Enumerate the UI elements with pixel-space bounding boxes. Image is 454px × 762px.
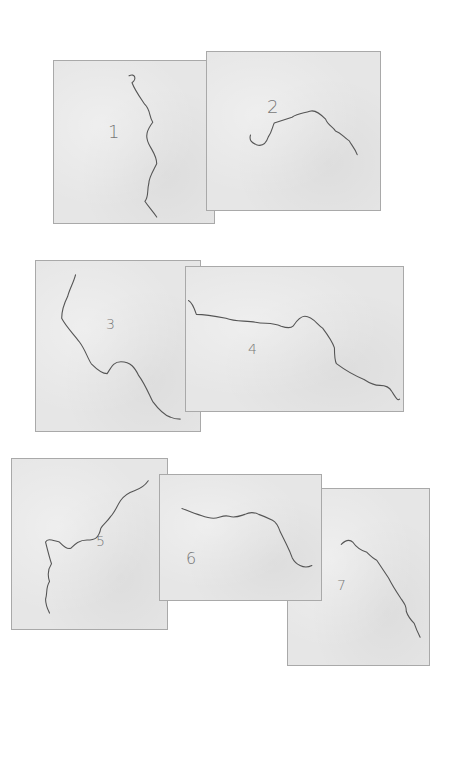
crack-line-3 (36, 261, 200, 431)
crack-line-4 (186, 267, 403, 411)
panel-label-2: 2 (267, 96, 278, 117)
crack-panel-2: 2 (206, 51, 381, 211)
crack-panel-4: 4 (185, 266, 404, 412)
crack-panel-6: 6 (159, 474, 322, 601)
panel-label-4: 4 (248, 341, 257, 357)
crack-line-2 (207, 52, 380, 210)
panel-label-7: 7 (337, 577, 346, 593)
panel-label-6: 6 (186, 549, 196, 568)
panel-label-1: 1 (108, 121, 119, 142)
crack-panel-5: 5 (11, 458, 168, 630)
crack-line-6 (160, 475, 321, 600)
crack-line-1 (54, 61, 214, 223)
crack-panel-1: 1 (53, 60, 215, 224)
panel-label-3: 3 (106, 316, 115, 332)
crack-line-5 (12, 459, 167, 629)
crack-panel-3: 3 (35, 260, 201, 432)
panel-label-5: 5 (96, 533, 105, 549)
